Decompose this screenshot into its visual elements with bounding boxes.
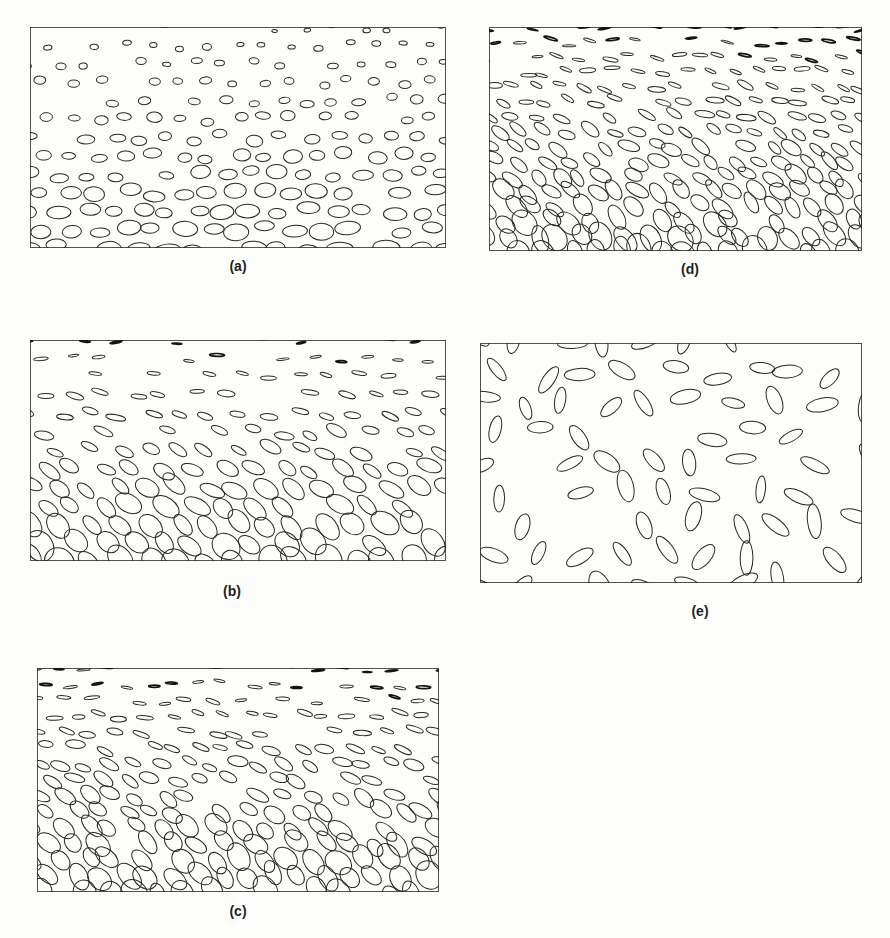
ellipse-glyph bbox=[159, 171, 174, 180]
panel-a bbox=[30, 27, 446, 248]
ellipse-glyph bbox=[249, 100, 260, 107]
ellipse-glyph bbox=[704, 67, 716, 75]
ellipse-glyph bbox=[655, 98, 672, 107]
ellipse-glyph bbox=[271, 130, 286, 138]
ellipse-glyph bbox=[30, 205, 37, 219]
ellipse-glyph bbox=[372, 40, 381, 46]
ellipse-glyph bbox=[38, 740, 53, 748]
ellipse-glyph bbox=[558, 178, 582, 200]
ellipse-glyph bbox=[692, 53, 707, 57]
ellipse-glyph bbox=[766, 212, 787, 236]
ellipse-glyph bbox=[80, 845, 104, 870]
ellipse-glyph bbox=[30, 525, 60, 561]
ellipse-glyph bbox=[433, 168, 446, 178]
ellipse-glyph bbox=[856, 49, 862, 57]
ellipse-glyph bbox=[351, 370, 367, 376]
ellipse-glyph bbox=[621, 52, 634, 55]
ellipse-glyph bbox=[31, 188, 47, 198]
ellipse-glyph bbox=[201, 809, 232, 839]
ellipse-glyph bbox=[182, 245, 202, 248]
ellipse-glyph bbox=[303, 789, 324, 805]
ellipse-glyph bbox=[40, 113, 52, 122]
ellipse-glyph bbox=[721, 40, 734, 45]
panel-a-label: (a) bbox=[196, 258, 280, 274]
ellipse-glyph bbox=[105, 413, 126, 422]
ellipse-glyph bbox=[730, 68, 742, 75]
ellipse-glyph bbox=[386, 61, 397, 68]
ellipse-glyph bbox=[421, 390, 439, 398]
ellipse-glyph bbox=[386, 460, 410, 479]
ellipse-glyph bbox=[830, 109, 847, 121]
ellipse-glyph bbox=[489, 112, 499, 124]
ellipse-glyph bbox=[320, 82, 330, 89]
ellipse-glyph bbox=[139, 803, 158, 818]
ellipse-glyph bbox=[328, 206, 349, 218]
ellipse-glyph bbox=[821, 95, 839, 106]
ellipse-glyph bbox=[301, 429, 318, 443]
ellipse-glyph bbox=[837, 123, 853, 133]
ellipse-glyph bbox=[54, 668, 64, 670]
ellipse-glyph bbox=[62, 225, 82, 239]
ellipse-glyph bbox=[489, 29, 494, 32]
ellipse-glyph bbox=[357, 62, 365, 67]
ellipse-glyph bbox=[691, 170, 714, 188]
panel-b-label: (b) bbox=[190, 583, 274, 599]
ellipse-glyph bbox=[404, 844, 433, 874]
ellipse-glyph bbox=[681, 449, 697, 477]
ellipse-glyph bbox=[738, 53, 751, 58]
ellipse-glyph bbox=[314, 828, 340, 854]
ellipse-glyph bbox=[274, 431, 295, 442]
ellipse-glyph bbox=[171, 410, 187, 420]
ellipse-glyph bbox=[162, 62, 170, 67]
ellipse-glyph bbox=[813, 129, 830, 139]
ellipse-glyph bbox=[411, 856, 439, 892]
ellipse-glyph bbox=[174, 115, 186, 122]
ellipse-glyph bbox=[787, 110, 807, 122]
ellipse-glyph bbox=[821, 190, 847, 217]
ellipse-glyph bbox=[209, 204, 234, 221]
ellipse-glyph bbox=[418, 424, 436, 437]
ellipse-glyph bbox=[553, 81, 567, 87]
ellipse-glyph bbox=[325, 816, 356, 844]
ellipse-glyph bbox=[30, 27, 31, 29]
ellipse-glyph bbox=[310, 539, 347, 561]
ellipse-glyph bbox=[363, 28, 371, 33]
ellipse-glyph bbox=[417, 58, 426, 65]
ellipse-glyph bbox=[127, 242, 151, 248]
ellipse-glyph bbox=[579, 67, 595, 73]
ellipse-glyph bbox=[158, 132, 171, 141]
ellipse-glyph bbox=[213, 864, 236, 891]
ellipse-glyph bbox=[697, 431, 728, 448]
ellipse-glyph bbox=[218, 769, 239, 785]
ellipse-glyph bbox=[385, 340, 396, 341]
ellipse-glyph bbox=[205, 697, 220, 706]
ellipse-glyph bbox=[602, 177, 626, 203]
ellipse-glyph bbox=[532, 55, 543, 58]
ellipse-glyph bbox=[672, 52, 687, 57]
ellipse-glyph bbox=[588, 165, 614, 186]
ellipse-glyph bbox=[47, 206, 71, 219]
panel-d-label: (d) bbox=[648, 261, 732, 277]
ellipse-glyph bbox=[772, 364, 803, 379]
ellipse-glyph bbox=[399, 81, 411, 89]
ellipse-glyph bbox=[841, 69, 854, 76]
ellipse-glyph bbox=[333, 829, 362, 855]
ellipse-glyph bbox=[80, 340, 91, 343]
panel-c-label: (c) bbox=[196, 903, 280, 919]
ellipse-glyph bbox=[224, 730, 242, 740]
ellipse-glyph bbox=[791, 54, 802, 58]
ellipse-glyph bbox=[238, 800, 260, 819]
ellipse-glyph bbox=[410, 95, 423, 104]
ellipse-glyph bbox=[191, 206, 209, 216]
ellipse-glyph bbox=[131, 394, 147, 400]
ellipse-glyph bbox=[299, 244, 319, 248]
ellipse-glyph bbox=[120, 772, 140, 790]
ellipse-glyph bbox=[817, 366, 843, 392]
ellipse-glyph bbox=[439, 407, 446, 420]
ellipse-glyph bbox=[336, 864, 363, 892]
ellipse-glyph bbox=[846, 36, 860, 41]
ellipse-glyph bbox=[435, 243, 446, 248]
ellipse-glyph bbox=[393, 390, 407, 395]
ellipse-glyph bbox=[82, 405, 100, 416]
ellipse-glyph bbox=[147, 881, 168, 892]
